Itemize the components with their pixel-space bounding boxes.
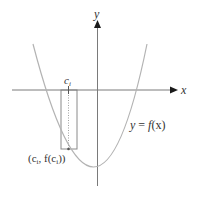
x-axis-label: x (180, 83, 187, 97)
sample-point-label: ci (64, 74, 71, 88)
parabola-curve (33, 44, 147, 167)
x-axis-arrow-icon (170, 87, 178, 94)
point-coordinate-label: (ci, f(ci)) (28, 152, 66, 166)
curve-label: y = f(x) (129, 118, 165, 132)
riemann-rectangle-diagram: y x ci y = f(x) (ci, f(ci)) (0, 0, 199, 202)
y-axis-label: y (93, 7, 100, 21)
y-axis-arrow-icon (94, 20, 101, 28)
diagram-canvas: y x ci y = f(x) (ci, f(ci)) (0, 0, 199, 202)
sample-point-marker (67, 148, 70, 151)
